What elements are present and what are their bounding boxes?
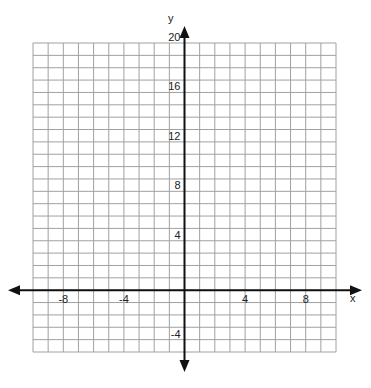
x-axis-left-arrow-icon — [8, 285, 20, 295]
y-axis-up-arrow-icon — [180, 26, 190, 38]
y-tick-label: 4 — [174, 229, 180, 241]
axes — [8, 26, 362, 372]
x-tick-label: -4 — [119, 293, 129, 305]
x-tick-label: 4 — [242, 293, 248, 305]
y-tick-label: 8 — [174, 179, 180, 191]
x-tick-label: -8 — [58, 293, 68, 305]
y-axis-down-arrow-icon — [180, 360, 190, 372]
x-tick-label: 8 — [303, 293, 309, 305]
x-axis-label: x — [350, 292, 356, 304]
y-tick-label: 16 — [168, 80, 180, 92]
y-tick-label: 20 — [168, 31, 180, 43]
y-tick-label: 12 — [168, 130, 180, 142]
y-tick-label: -4 — [171, 328, 181, 340]
coordinate-plane: -8-448-448121620 x y — [0, 0, 371, 388]
y-axis-label: y — [168, 12, 174, 24]
